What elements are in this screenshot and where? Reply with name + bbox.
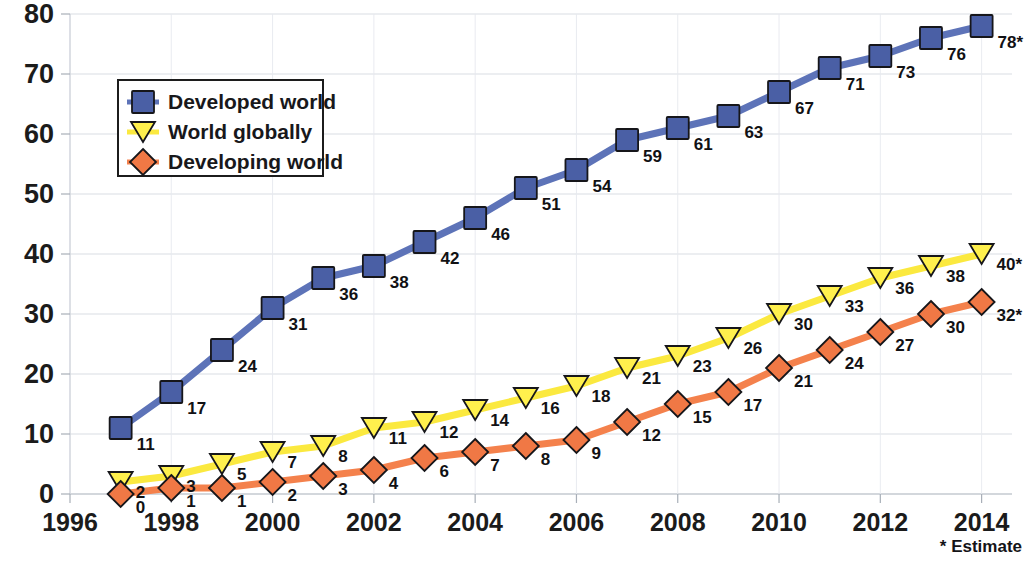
x-axis-tick-label: 2014 — [954, 508, 1010, 536]
data-label-developing-world: 4 — [389, 474, 399, 493]
data-label-developed-world: 42 — [441, 249, 460, 268]
data-label-developed-world: 54 — [592, 177, 611, 196]
y-axis-tick-label: 40 — [24, 239, 54, 269]
estimate-footnote: * Estimate — [940, 537, 1022, 556]
y-axis-tick-label: 70 — [24, 59, 54, 89]
y-axis-tick-label: 0 — [39, 479, 54, 509]
data-point-marker-developing-world — [260, 469, 286, 495]
data-label-developing-world: 8 — [541, 450, 550, 469]
data-point-marker-developing-world — [361, 457, 387, 483]
data-point-marker-developed-world — [464, 207, 486, 229]
data-label-world-globally: 7 — [288, 453, 297, 472]
data-point-marker-developing-world — [867, 319, 893, 345]
data-point-marker-developing-world — [108, 481, 134, 507]
data-label-developing-world: 17 — [743, 396, 762, 415]
x-axis-tick-label: 2012 — [853, 508, 909, 536]
data-label-world-globally: 14 — [490, 411, 509, 430]
line-chart: 01020304050607080 1996199820002002200420… — [0, 0, 1035, 563]
data-point-marker-developed-world — [971, 15, 993, 37]
data-point-marker-developed-world — [768, 81, 790, 103]
data-point-marker-developing-world — [665, 391, 691, 417]
data-label-developed-world: 78* — [998, 33, 1024, 52]
data-label-developed-world: 73 — [896, 63, 915, 82]
data-label-world-globally: 8 — [338, 447, 347, 466]
data-label-developing-world: 32* — [997, 306, 1023, 325]
data-point-marker-developed-world — [565, 159, 587, 181]
data-point-marker-developed-world — [819, 57, 841, 79]
data-label-world-globally: 23 — [693, 357, 712, 376]
data-label-developing-world: 12 — [642, 426, 661, 445]
data-label-world-globally: 30 — [794, 315, 813, 334]
data-label-world-globally: 38 — [946, 267, 965, 286]
y-axis-tick-label: 60 — [24, 119, 54, 149]
data-label-developed-world: 71 — [846, 75, 865, 94]
data-point-marker-developed-world — [616, 129, 638, 151]
data-label-developed-world: 38 — [390, 273, 409, 292]
data-label-developing-world: 0 — [136, 498, 145, 517]
data-point-marker-developing-world — [614, 409, 640, 435]
data-point-marker-developing-world — [918, 301, 944, 327]
data-label-world-globally: 21 — [642, 369, 661, 388]
data-label-developing-world: 7 — [490, 456, 499, 475]
data-point-marker-developing-world — [412, 445, 438, 471]
x-axis-tick-label: 2004 — [447, 508, 503, 536]
data-label-world-globally: 36 — [895, 279, 914, 298]
legend-label-developed-world: Developed world — [168, 90, 336, 113]
y-axis-tick-label: 50 — [24, 179, 54, 209]
data-label-world-globally: 26 — [743, 339, 762, 358]
x-axis-tick-label: 2010 — [751, 508, 807, 536]
data-label-developed-world: 31 — [289, 315, 308, 334]
data-label-developed-world: 36 — [339, 285, 358, 304]
data-point-marker-developed-world — [414, 231, 436, 253]
chart-container: 01020304050607080 1996199820002002200420… — [0, 0, 1035, 563]
data-point-marker-developing-world — [209, 475, 235, 501]
data-label-world-globally: 33 — [845, 297, 864, 316]
data-label-developed-world: 46 — [491, 225, 510, 244]
data-label-developed-world: 11 — [137, 435, 155, 454]
data-point-marker-developed-world — [869, 45, 891, 67]
data-point-marker-developing-world — [817, 337, 843, 363]
data-label-developing-world: 9 — [591, 444, 600, 463]
data-label-developing-world: 1 — [237, 492, 246, 511]
y-axis-labels-group: 01020304050607080 — [24, 0, 54, 509]
data-point-marker-developing-world — [513, 433, 539, 459]
x-axis-tick-label: 2002 — [346, 508, 402, 536]
data-point-marker-developing-world — [563, 427, 589, 453]
x-axis-tick-label: 2006 — [549, 508, 605, 536]
data-label-world-globally: 5 — [237, 465, 246, 484]
data-point-marker-developing-world — [766, 355, 792, 381]
chart-legend: Developed worldWorld globallyDeveloping … — [118, 80, 343, 176]
data-point-marker-developed-world — [667, 117, 689, 139]
data-label-developed-world: 59 — [643, 147, 662, 166]
data-point-marker-developed-world — [312, 267, 334, 289]
data-label-developed-world: 67 — [795, 99, 814, 118]
data-label-developing-world: 3 — [338, 480, 347, 499]
data-label-developed-world: 17 — [187, 399, 206, 418]
data-point-marker-developed-world — [515, 177, 537, 199]
data-point-marker-developed-world — [363, 255, 385, 277]
data-label-world-globally: 12 — [440, 423, 459, 442]
data-label-developing-world: 21 — [794, 372, 813, 391]
x-axis-tick-label: 1998 — [143, 508, 199, 536]
data-point-marker-developing-world — [310, 463, 336, 489]
x-axis-labels-group: 1996199820002002200420062008201020122014 — [42, 508, 1009, 536]
legend-label-developing-world: Developing world — [168, 150, 343, 173]
data-label-developed-world: 61 — [694, 135, 713, 154]
data-point-marker-developed-world — [160, 381, 182, 403]
data-label-developing-world: 15 — [693, 408, 712, 427]
data-point-marker-developing-world — [969, 289, 995, 315]
data-point-marker-developed-world — [920, 27, 942, 49]
data-point-marker-developing-world — [715, 379, 741, 405]
data-label-developing-world: 27 — [895, 336, 914, 355]
data-label-developed-world: 76 — [947, 45, 966, 64]
x-axis-tick-label: 2008 — [650, 508, 706, 536]
data-point-marker-developed-world — [211, 339, 233, 361]
data-point-marker-developed-world — [717, 105, 739, 127]
data-label-world-globally: 18 — [591, 387, 610, 406]
data-point-marker-developed-world — [262, 297, 284, 319]
y-axis-tick-label: 10 — [24, 419, 54, 449]
data-point-marker-developed-world — [110, 417, 132, 439]
data-label-developing-world: 1 — [186, 492, 195, 511]
data-label-world-globally: 40* — [997, 255, 1023, 274]
data-label-developed-world: 51 — [542, 195, 561, 214]
